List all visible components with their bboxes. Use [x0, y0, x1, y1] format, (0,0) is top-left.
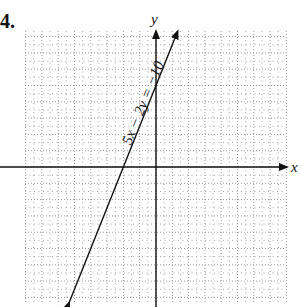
coordinate-plane: x y 5x − 2y = −10 — [0, 0, 301, 307]
y-axis-label: y — [149, 11, 158, 27]
graph-figure: 4. x y 5x − 2y = −10 — [0, 0, 301, 307]
equation-label: 5x − 2y = −10 — [119, 58, 167, 147]
x-axis-label: x — [290, 159, 298, 175]
